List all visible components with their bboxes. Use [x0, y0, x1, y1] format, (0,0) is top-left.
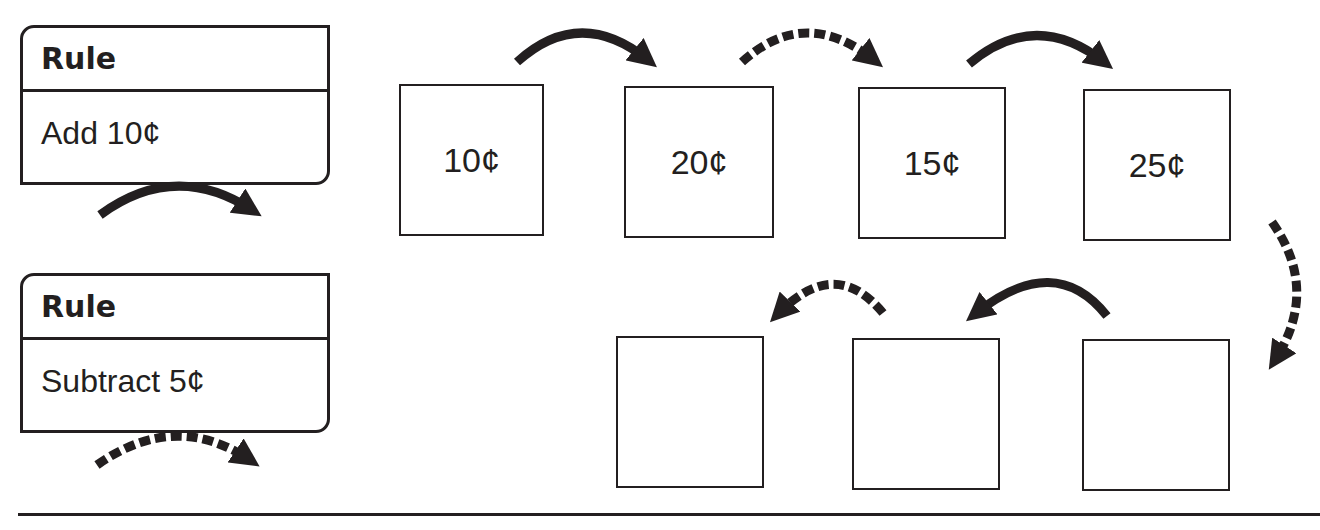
solid-arrow-icon: [969, 35, 1104, 64]
dashed-arrow-icon: [778, 284, 883, 314]
dashed-arrow-icon: [1272, 222, 1297, 360]
solid-arrow-icon: [975, 282, 1107, 316]
solid-arrow-icon: [100, 186, 252, 215]
bottom-divider: [18, 513, 1320, 516]
arrows-layer: [0, 0, 1320, 530]
dashed-arrow-icon: [742, 33, 874, 62]
dashed-arrow-icon: [97, 436, 250, 465]
solid-arrow-icon: [517, 33, 648, 62]
